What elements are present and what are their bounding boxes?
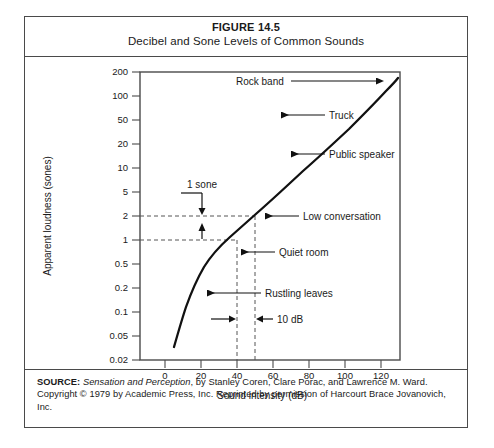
y-tick-label: 0.1 xyxy=(115,306,128,317)
y-axis-ticks xyxy=(132,72,140,360)
chart-plot-area: 200 100 50 20 10 5 2 1 0.5 0.2 0.1 0.05 … xyxy=(25,57,469,371)
x-axis-ticks xyxy=(165,360,381,368)
page-title: Decibel and Sone Levels of Common Sounds xyxy=(25,35,467,47)
annotation-one-sone-span: 1 sone xyxy=(181,179,217,239)
source-text: SOURCE: Sensation and Perception, by Sta… xyxy=(37,376,457,413)
y-tick-label: 2 xyxy=(123,210,128,221)
chart-guide-lines xyxy=(140,216,255,360)
y-tick-label: 0.2 xyxy=(115,282,128,293)
annotation-label: Low conversation xyxy=(303,211,381,222)
y-tick-label: 0.02 xyxy=(110,354,129,365)
source-block: SOURCE: Sensation and Perception, by Sta… xyxy=(25,369,467,427)
annotation-label: Rustling leaves xyxy=(265,288,333,299)
annotation-ten-db-span: 10 dB xyxy=(211,314,303,325)
annotation-quiet-room: Quiet room xyxy=(241,247,328,258)
annotation-public-speaker: Public speaker xyxy=(291,149,395,160)
source-title-italic: Sensation and Perception xyxy=(83,377,191,387)
annotation-label: Quiet room xyxy=(279,247,328,258)
annotation-label: 1 sone xyxy=(187,179,217,190)
annotation-rustling-leaves: Rustling leaves xyxy=(207,288,333,299)
y-tick-label: 5 xyxy=(123,186,128,197)
loudness-chart-svg: 200 100 50 20 10 5 2 1 0.5 0.2 0.1 0.05 … xyxy=(25,57,469,371)
figure-title-block: FIGURE 14.5 Decibel and Sone Levels of C… xyxy=(25,17,467,57)
y-tick-label: 200 xyxy=(112,66,128,77)
figure-number: FIGURE 14.5 xyxy=(25,21,467,33)
annotation-label: Public speaker xyxy=(329,149,395,160)
y-tick-label: 50 xyxy=(117,114,128,125)
y-axis-tick-labels: 200 100 50 20 10 5 2 1 0.5 0.2 0.1 0.05 … xyxy=(110,66,129,365)
annotation-truck: Truck xyxy=(281,110,355,121)
y-tick-label: 0.5 xyxy=(115,258,128,269)
y-axis-title: Apparent loudness (sones) xyxy=(42,156,53,276)
annotation-label: Rock band xyxy=(236,76,284,87)
figure-box: FIGURE 14.5 Decibel and Sone Levels of C… xyxy=(24,16,468,428)
annotation-low-conversation: Low conversation xyxy=(265,211,381,222)
y-tick-label: 20 xyxy=(117,138,128,149)
annotation-label: Truck xyxy=(329,110,355,121)
source-label: SOURCE: xyxy=(37,377,80,387)
y-tick-label: 0.05 xyxy=(110,330,129,341)
annotation-rock-band: Rock band xyxy=(236,76,377,87)
y-tick-label: 1 xyxy=(123,234,128,245)
y-tick-label: 10 xyxy=(117,162,128,173)
annotation-label: 10 dB xyxy=(277,314,303,325)
y-tick-label: 100 xyxy=(112,90,128,101)
